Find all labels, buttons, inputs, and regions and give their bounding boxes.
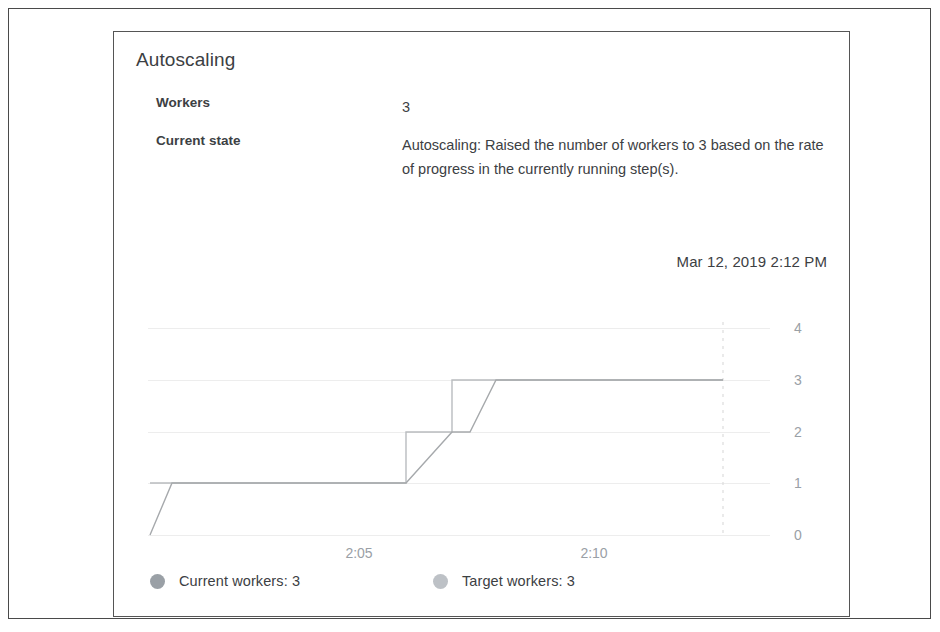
- legend-item-target-workers[interactable]: Target workers: 3: [433, 568, 575, 594]
- detail-value-workers: 3: [402, 95, 834, 119]
- chart-canvas: 4 3 2 1 0 2:05 2:10: [114, 292, 849, 562]
- legend-swatch-current-workers: [150, 574, 165, 589]
- chart-x-axis-labels: 2:05 2:10: [345, 545, 607, 561]
- y-tick-3: 3: [794, 372, 802, 388]
- y-tick-2: 2: [794, 424, 802, 440]
- legend-label-target-workers: Target workers: 3: [462, 573, 575, 589]
- autoscaling-chart: 4 3 2 1 0 2:05 2:10: [114, 292, 849, 562]
- chart-y-axis-labels: 4 3 2 1 0: [794, 320, 802, 543]
- y-tick-0: 0: [794, 527, 802, 543]
- autoscaling-card: Autoscaling Workers 3 Current state Auto…: [113, 31, 850, 617]
- detail-label-current-state: Current state: [156, 133, 396, 148]
- page-title: Autoscaling: [136, 49, 235, 71]
- x-tick-205: 2:05: [345, 545, 372, 561]
- legend-item-current-workers[interactable]: Current workers: 3: [150, 568, 300, 594]
- legend-swatch-target-workers: [433, 574, 448, 589]
- x-tick-210: 2:10: [580, 545, 607, 561]
- chart-timestamp: Mar 12, 2019 2:12 PM: [677, 253, 827, 270]
- detail-value-current-state: Autoscaling: Raised the number of worker…: [402, 133, 834, 181]
- y-tick-4: 4: [794, 320, 802, 336]
- y-tick-1: 1: [794, 475, 802, 491]
- legend-label-current-workers: Current workers: 3: [179, 573, 300, 589]
- series-target-workers: [150, 380, 723, 483]
- scan-frame: Autoscaling Workers 3 Current state Auto…: [8, 8, 931, 619]
- detail-label-workers: Workers: [156, 95, 396, 110]
- series-current-workers: [150, 380, 723, 535]
